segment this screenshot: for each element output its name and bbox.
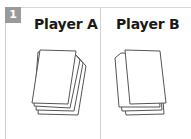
- card-stack-icon: [30, 48, 90, 118]
- step-number-badge: 1: [5, 7, 21, 23]
- card-stack-icon: [112, 48, 172, 118]
- player-a-label: Player A: [34, 16, 98, 32]
- player-b-label: Player B: [116, 16, 180, 32]
- column-divider: [100, 8, 101, 139]
